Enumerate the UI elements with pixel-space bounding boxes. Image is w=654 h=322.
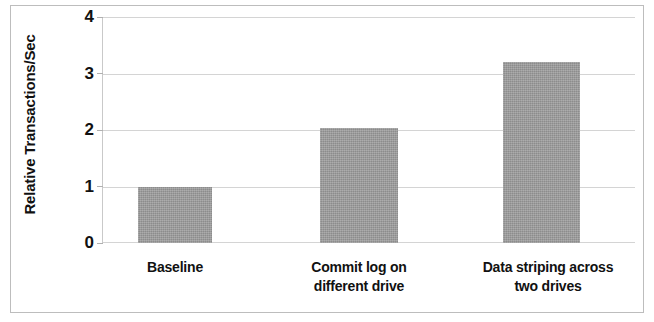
y-axis-title: Relative Transactions/Sec [21,10,38,240]
gridline-4 [103,17,635,18]
plot-area [103,17,635,243]
x-label-commit-log-line2: different drive [289,277,429,296]
x-label-data-striping-line1: Data striping across [483,259,614,275]
y-tick-label-3: 3 [66,64,94,84]
y-axis-tick-labels: 4 3 2 1 0 [60,0,94,322]
y-tick-label-2: 2 [66,120,94,140]
x-label-baseline-line1: Baseline [147,259,203,275]
y-axis-tick-0 [97,243,103,244]
y-tick-label-0: 0 [66,233,94,253]
y-tick-label-1: 1 [66,177,94,197]
x-label-commit-log: Commit log on different drive [289,258,429,296]
bar-data-striping-across-two-drives [503,62,580,243]
x-label-commit-log-line1: Commit log on [311,259,406,275]
x-label-baseline: Baseline [115,258,235,277]
bar-baseline [138,187,212,244]
bar-chart-figure: Relative Transactions/Sec 4 3 2 1 0 Base… [0,0,654,322]
x-label-data-striping-line2: two drives [467,277,629,296]
bar-commit-log-on-different-drive [320,128,398,243]
x-label-data-striping: Data striping across two drives [467,258,629,296]
y-tick-label-4: 4 [66,7,94,27]
x-axis-category-labels: Baseline Commit log on different drive D… [103,258,635,312]
